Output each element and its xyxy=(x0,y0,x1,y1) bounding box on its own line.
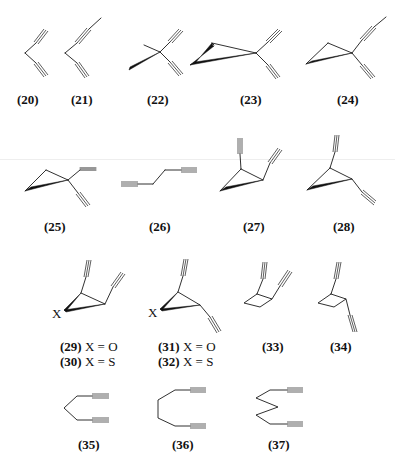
structure-28 xyxy=(307,135,376,205)
structure-22 xyxy=(129,29,183,76)
label-29: (29) X = O xyxy=(60,339,118,355)
heteroatom-x-31-32: X xyxy=(148,305,157,321)
structure-37 xyxy=(256,388,303,426)
label-25: (25) xyxy=(44,219,66,235)
structure-25 xyxy=(25,168,96,207)
label-27: (27) xyxy=(243,219,265,235)
label-21: (21) xyxy=(71,92,93,108)
label-28: (28) xyxy=(333,219,355,235)
label-30: (30) X = S xyxy=(60,354,115,370)
label-34: (34) xyxy=(330,339,352,355)
label-37: (37) xyxy=(268,437,290,453)
structure-26 xyxy=(121,168,197,186)
structure-23 xyxy=(190,29,282,79)
structure-27 xyxy=(220,138,282,191)
label-22: (22) xyxy=(147,92,169,108)
structure-29-30 xyxy=(64,260,125,312)
label-32: (32) X = S xyxy=(158,354,213,370)
structure-34 xyxy=(318,262,357,332)
label-20: (20) xyxy=(17,92,39,108)
label-26: (26) xyxy=(149,219,171,235)
label-24: (24) xyxy=(337,92,359,108)
label-31: (31) X = O xyxy=(158,339,216,355)
structure-35 xyxy=(64,394,109,422)
heteroatom-x-29-30: X xyxy=(52,306,61,322)
label-36: (36) xyxy=(172,437,194,453)
structure-36 xyxy=(158,388,206,428)
label-35: (35) xyxy=(78,437,100,453)
structure-21 xyxy=(65,18,101,78)
structure-33 xyxy=(244,262,292,307)
structure-20 xyxy=(25,29,48,77)
label-23: (23) xyxy=(240,92,262,108)
structure-31-32 xyxy=(160,259,221,333)
structure-24 xyxy=(306,17,386,79)
label-33: (33) xyxy=(262,339,284,355)
